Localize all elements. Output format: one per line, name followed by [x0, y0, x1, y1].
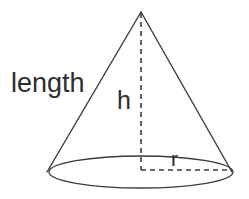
cone-diagram-canvas: length h r: [0, 0, 249, 199]
slant-height-label: length: [11, 70, 85, 97]
radius-label: r: [171, 148, 178, 169]
height-label: h: [117, 88, 131, 113]
cone-right-slant-line: [141, 12, 232, 172]
